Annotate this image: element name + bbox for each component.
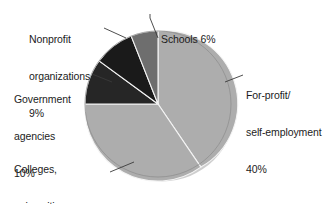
pie-chart-figure: Nonprofit organizations 9% Schools 6% Fo… [0, 0, 332, 204]
slice-label-nonprofit-line1: Nonprofit [29, 33, 90, 45]
slice-label-colleges-line2: universities, [14, 200, 87, 204]
slice-label-government-line1: Government [14, 93, 71, 105]
slice-label-for-profit-line1: For-profit/ [246, 89, 322, 101]
slice-label-for-profit-line2: self-employment [246, 126, 322, 138]
slice-label-schools: Schools 6% [161, 8, 215, 70]
slice-label-schools-line1: Schools 6% [161, 33, 215, 45]
leader-line-nonprofit [104, 28, 126, 38]
slice-label-for-profit-self-employment: For-profit/ self-employment 40% [246, 64, 322, 200]
slice-label-for-profit-value: 40% [246, 163, 322, 175]
slice-label-colleges-universities-medical-schools: Colleges, universities, medical schools … [14, 138, 87, 204]
slice-label-colleges-line1: Colleges, [14, 163, 87, 175]
